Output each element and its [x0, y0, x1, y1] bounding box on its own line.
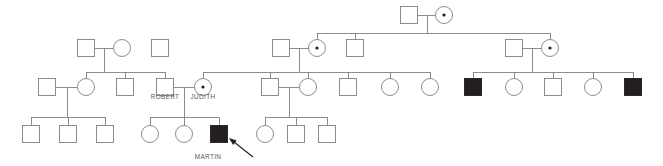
individual-II-3-male-unaffected — [152, 40, 169, 57]
carrier-dot-II-8 — [548, 46, 551, 49]
individual-II-7-male-unaffected — [506, 40, 523, 57]
individual-IV-6-male-affected — [211, 126, 228, 143]
individual-III-15-male-affected — [625, 79, 642, 96]
carrier-dot-II-5 — [315, 46, 318, 49]
label-judith: JUDITH — [191, 93, 216, 100]
carrier-dot-III-5 — [201, 85, 204, 88]
pedigree-chart: ROBERTJUDITHMARTIN — [0, 0, 663, 166]
individual-IV-9-male-unaffected — [319, 126, 336, 143]
individual-II-1-male-unaffected — [78, 40, 95, 57]
individual-III-3-male-unaffected — [117, 79, 134, 96]
individual-IV-8-male-unaffected — [288, 126, 305, 143]
label-martin: MARTIN — [195, 153, 222, 160]
individual-III-14-female-unaffected — [585, 79, 602, 96]
individual-III-11-male-affected — [465, 79, 482, 96]
individual-III-7-female-unaffected — [300, 79, 317, 96]
proband-arrow-shaft — [232, 141, 253, 157]
individual-II-4-male-unaffected — [273, 40, 290, 57]
individual-III-9-female-unaffected — [382, 79, 399, 96]
individual-IV-5-female-unaffected — [176, 126, 193, 143]
proband-arrow-layer — [229, 138, 253, 157]
individual-III-13-male-unaffected — [545, 79, 562, 96]
individual-III-12-female-unaffected — [506, 79, 523, 96]
individual-IV-2-male-unaffected — [60, 126, 77, 143]
individual-II-2-female-unaffected — [114, 40, 131, 57]
pedigree-diagram: ROBERTJUDITHMARTIN — [0, 0, 663, 166]
individual-III-2-female-unaffected — [78, 79, 95, 96]
individual-IV-4-female-unaffected — [142, 126, 159, 143]
individual-III-6-male-unaffected — [262, 79, 279, 96]
individual-IV-1-male-unaffected — [23, 126, 40, 143]
connector-lines-layer — [31, 15, 633, 126]
individual-symbols-layer — [23, 7, 642, 143]
individual-III-1-male-unaffected — [39, 79, 56, 96]
individual-IV-7-female-unaffected — [257, 126, 274, 143]
carrier-dot-I-2 — [442, 13, 445, 16]
individual-II-6-male-unaffected — [347, 40, 364, 57]
label-robert: ROBERT — [151, 93, 180, 100]
individual-I-1-male-unaffected — [401, 7, 418, 24]
individual-III-10-female-unaffected — [422, 79, 439, 96]
individual-IV-3-male-unaffected — [97, 126, 114, 143]
individual-III-8-male-unaffected — [340, 79, 357, 96]
